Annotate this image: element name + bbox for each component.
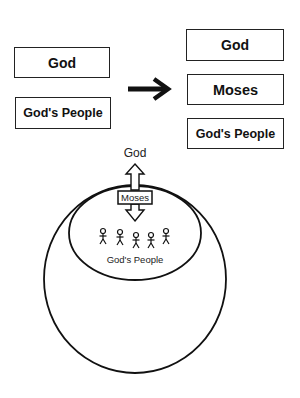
illustration-moses-label: Moses bbox=[118, 191, 152, 204]
illustration-god-label: God bbox=[110, 146, 160, 160]
illustration-gods-people-label: God's People bbox=[95, 254, 175, 265]
